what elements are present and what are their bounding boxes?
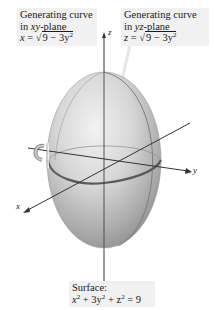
- rotation-arrow-icon: [35, 143, 48, 168]
- surface-annotation: Surface: x2 + 3y2 + z2 = 9: [69, 281, 155, 307]
- surface-eq-rhs: = 9: [125, 294, 141, 305]
- yz-curve-equation: z = √9 − 3y2: [124, 32, 206, 44]
- x-axis-label: x: [16, 201, 20, 211]
- ellipsoid-figure: [0, 0, 214, 310]
- yz-annotation-title: Generating curve: [124, 9, 206, 21]
- y-axis-label: y: [193, 165, 197, 175]
- xy-plane-var: xy: [31, 21, 40, 32]
- surface-eq-y: + 3y: [80, 294, 102, 305]
- xy-curve-annotation: Generating curve in xy-plane x = √9 − 3y…: [17, 8, 97, 46]
- yz-eq-radicand: 9 − 3y: [146, 32, 173, 43]
- yz-plane-prefix: in: [124, 21, 135, 32]
- yz-plane-suffix: -plane: [144, 21, 170, 32]
- xy-eq-radicand: 9 − 3y: [43, 32, 70, 43]
- xy-plane-prefix: in: [20, 21, 31, 32]
- xy-eq-exp: 2: [70, 31, 74, 39]
- z-axis-arrow-icon: [102, 32, 106, 38]
- xy-eq-equals: =: [25, 32, 36, 43]
- xy-annotation-title: Generating curve: [20, 9, 94, 21]
- yz-plane-var: yz: [135, 21, 144, 32]
- yz-eq-equals: =: [128, 32, 139, 43]
- yz-eq-exp: 2: [173, 31, 177, 39]
- yz-curve-annotation: Generating curve in yz-plane z = √9 − 3y…: [121, 8, 209, 46]
- surface-equation: x2 + 3y2 + z2 = 9: [72, 294, 152, 306]
- xy-curve-equation: x = √9 − 3y2: [20, 32, 94, 44]
- y-axis-arrow-icon: [185, 168, 192, 174]
- x-axis-arrow-icon: [23, 207, 30, 213]
- surface-title: Surface:: [72, 282, 152, 294]
- z-axis-label: z: [108, 27, 112, 37]
- xy-plane-suffix: -plane: [40, 21, 66, 32]
- surface-eq-z: + z: [105, 294, 121, 305]
